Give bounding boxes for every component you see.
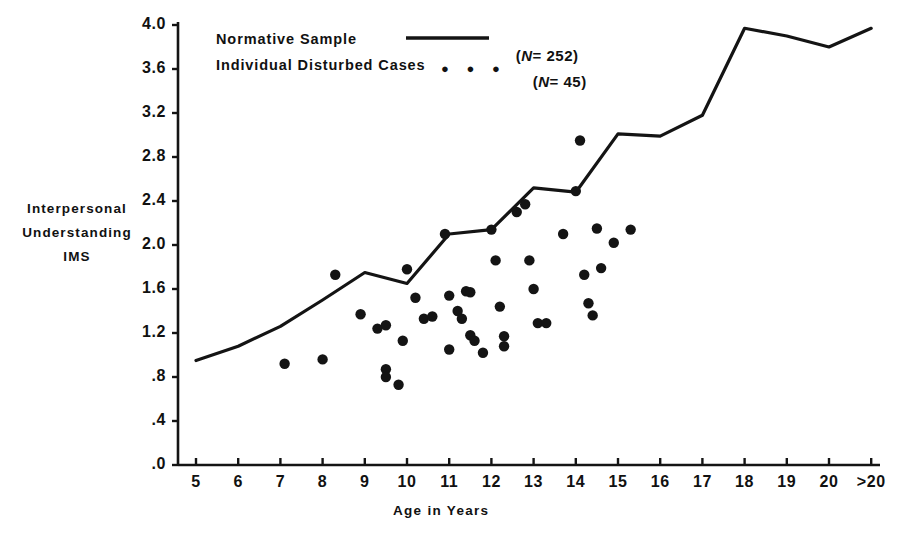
x-tick-label-12: 12 [469,473,513,491]
scatter-point-9 [398,336,408,346]
legend-n-disturbed-value: = 45) [550,73,587,90]
x-tick-label-6: 6 [216,473,260,491]
scatter-point-15 [444,344,454,354]
x-tick-label-18: 18 [723,473,767,491]
scatter-point-40 [596,263,606,273]
y-tick-label-.0: .0 [122,455,166,473]
scatter-point-21 [469,336,479,346]
x-tick-label-8: 8 [301,473,345,491]
scatter-point-35 [575,135,585,145]
y-tick-label-3.6: 3.6 [122,59,166,77]
scatter-point-14 [444,290,454,300]
chart-figure: 4.03.63.22.82.42.01.61.2.8.4.0 567891011… [0,0,897,540]
scatter-point-33 [558,229,568,239]
y-tick-label-.8: .8 [122,367,166,385]
scatter-point-1 [317,354,327,364]
x-tick-label-19: 19 [765,473,809,491]
scatter-point-22 [478,348,488,358]
y-tick-label-2.8: 2.8 [122,147,166,165]
disturbed-cases-scatter [279,135,635,390]
y-axis-title: InterpersonalUnderstandingIMS [2,197,152,269]
scatter-point-10 [402,264,412,274]
legend-n-individual-disturbed-cases: (N= 45) [514,56,587,107]
x-tick-label-gt20: >20 [841,473,897,491]
scatter-point-19 [465,287,475,297]
scatter-point-27 [499,341,509,351]
scatter-point-30 [524,255,534,265]
y-tick-label-1.6: 1.6 [122,279,166,297]
scatter-point-23 [486,224,496,234]
x-axis-title: Age in Years [393,503,489,518]
scatter-point-24 [490,255,500,265]
y-axis-title-line-2: IMS [2,245,152,269]
scatter-point-39 [592,223,602,233]
scatter-point-17 [457,314,467,324]
scatter-point-25 [495,301,505,311]
legend-dot-marker: ● ● ● [441,62,507,75]
x-tick-label-16: 16 [638,473,682,491]
scatter-point-28 [512,207,522,217]
x-tick-label-10: 10 [385,473,429,491]
scatter-point-5 [381,320,391,330]
legend-label-normative-sample: Normative Sample [216,31,357,47]
scatter-point-43 [427,311,437,321]
scatter-point-29 [520,199,530,209]
x-tick-label-14: 14 [554,473,598,491]
y-tick-label-4.0: 4.0 [122,15,166,33]
y-tick-label-.4: .4 [122,411,166,429]
scatter-point-8 [393,380,403,390]
scatter-point-42 [625,224,635,234]
y-axis-title-line-0: Interpersonal [2,197,152,221]
x-tick-label-11: 11 [427,473,471,491]
scatter-point-37 [583,298,593,308]
x-tick-label-13: 13 [512,473,556,491]
scatter-point-38 [587,310,597,320]
scatter-point-26 [499,331,509,341]
x-tick-label-9: 9 [343,473,387,491]
y-tick-label-3.2: 3.2 [122,103,166,121]
scatter-point-0 [279,359,289,369]
scatter-point-44 [541,318,551,328]
x-tick-label-15: 15 [596,473,640,491]
y-tick-label-1.2: 1.2 [122,323,166,341]
legend-n-disturbed-symbol: N [538,73,549,90]
y-axis-title-line-1: Understanding [2,221,152,245]
scatter-point-31 [528,284,538,294]
scatter-point-3 [355,309,365,319]
scatter-point-36 [579,270,589,280]
scatter-point-34 [571,186,581,196]
scatter-point-2 [330,270,340,280]
scatter-point-11 [410,293,420,303]
x-tick-label-7: 7 [258,473,302,491]
legend-label-individual-disturbed-cases: Individual Disturbed Cases [216,57,426,73]
scatter-point-7 [381,372,391,382]
scatter-point-13 [440,229,450,239]
scatter-point-41 [609,238,619,248]
x-tick-label-17: 17 [680,473,724,491]
x-tick-label-5: 5 [174,473,218,491]
